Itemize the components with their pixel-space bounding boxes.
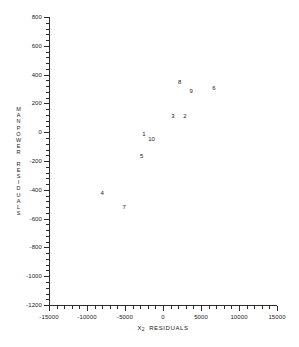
data-point-9: 9 (189, 88, 192, 94)
x-tick-minor (186, 306, 187, 309)
y-tick-major (44, 276, 49, 277)
x-axis-title-text: RESIDUALS (149, 325, 188, 331)
x-tick-minor (72, 306, 73, 309)
y-tick-major (44, 247, 49, 248)
y-tick-minor (46, 299, 49, 300)
x-tick-minor (224, 306, 225, 309)
y-tick-minor (46, 155, 49, 156)
y-tick-minor (46, 92, 49, 93)
x-tick-minor (57, 306, 58, 309)
y-tick-label: 800 (0, 14, 42, 20)
x-tick-minor (110, 306, 111, 309)
x-tick-label: 15000 (255, 314, 299, 320)
y-tick-major (44, 161, 49, 162)
data-point-3: 3 (171, 113, 174, 119)
x-tick-minor (64, 306, 65, 309)
y-tick-minor (46, 253, 49, 254)
y-tick-minor (46, 242, 49, 243)
y-tick-minor (46, 178, 49, 179)
y-tick-minor (46, 259, 49, 260)
y-tick-label: 600 (0, 43, 42, 49)
x-tick-minor (155, 306, 156, 309)
data-point-10: 10 (148, 136, 155, 142)
y-tick-label: -800 (0, 244, 42, 250)
y-tick-label: 400 (0, 72, 42, 78)
data-point-7: 7 (123, 204, 126, 210)
data-point-2: 2 (183, 113, 186, 119)
y-axis-title: MANPOWERRESIDUALS (14, 106, 23, 216)
y-tick-major (44, 46, 49, 47)
x-tick-minor (262, 306, 263, 309)
x-tick-minor (133, 306, 134, 309)
y-tick-major (44, 103, 49, 104)
y-tick-minor (46, 224, 49, 225)
x-tick-minor (178, 306, 179, 309)
x-tick-minor (148, 306, 149, 309)
data-point-1: 1 (142, 131, 145, 137)
y-tick-major (44, 190, 49, 191)
y-tick-minor (46, 213, 49, 214)
y-tick-minor (46, 109, 49, 110)
data-point-6: 6 (212, 85, 215, 91)
x-tick-major (163, 306, 164, 311)
x-axis-title: X2 RESIDUALS (49, 324, 277, 333)
x-tick-minor (254, 306, 255, 309)
x-tick-minor (171, 306, 172, 309)
y-tick-minor (46, 98, 49, 99)
x-tick-minor (216, 306, 217, 309)
x-tick-minor (269, 306, 270, 309)
y-tick-major (44, 17, 49, 18)
y-tick-minor (46, 144, 49, 145)
x-tick-major (125, 306, 126, 311)
y-tick-label: -600 (0, 216, 42, 222)
x-tick-major (201, 306, 202, 311)
x-tick-minor (247, 306, 248, 309)
y-tick-minor (46, 230, 49, 231)
y-tick-minor (46, 294, 49, 295)
y-tick-minor (46, 236, 49, 237)
x-tick-minor (95, 306, 96, 309)
x-tick-major (239, 306, 240, 311)
y-tick-minor (46, 282, 49, 283)
y-tick-minor (46, 196, 49, 197)
data-point-5: 5 (140, 153, 143, 159)
y-axis-line (49, 17, 50, 306)
y-tick-major (44, 132, 49, 133)
y-tick-minor (46, 288, 49, 289)
y-tick-minor (46, 63, 49, 64)
data-point-4: 4 (101, 190, 104, 196)
y-tick-minor (46, 121, 49, 122)
scatter-plot-figure: 8006004002000-200-400-600-800-1000-1200 … (0, 0, 299, 347)
y-tick-label: -1200 (0, 302, 42, 308)
y-tick-minor (46, 201, 49, 202)
y-tick-major (44, 219, 49, 220)
y-tick-minor (46, 115, 49, 116)
y-tick-minor (46, 126, 49, 127)
x-axis-title-subscript: 2 (142, 327, 145, 332)
x-tick-major (277, 306, 278, 311)
y-tick-major (44, 75, 49, 76)
y-tick-minor (46, 23, 49, 24)
y-tick-minor (46, 69, 49, 70)
y-tick-minor (46, 29, 49, 30)
y-tick-minor (46, 167, 49, 168)
y-tick-minor (46, 270, 49, 271)
y-tick-minor (46, 150, 49, 151)
x-tick-minor (193, 306, 194, 309)
x-tick-minor (79, 306, 80, 309)
y-tick-minor (46, 52, 49, 53)
y-tick-label: -1000 (0, 273, 42, 279)
x-tick-minor (140, 306, 141, 309)
data-point-8: 8 (178, 79, 181, 85)
y-tick-minor (46, 86, 49, 87)
y-tick-minor (46, 184, 49, 185)
y-tick-minor (46, 173, 49, 174)
x-tick-minor (209, 306, 210, 309)
y-tick-minor (46, 265, 49, 266)
x-tick-minor (102, 306, 103, 309)
x-tick-minor (117, 306, 118, 309)
y-tick-minor (46, 207, 49, 208)
y-tick-minor (46, 57, 49, 58)
x-tick-minor (231, 306, 232, 309)
y-tick-minor (46, 138, 49, 139)
